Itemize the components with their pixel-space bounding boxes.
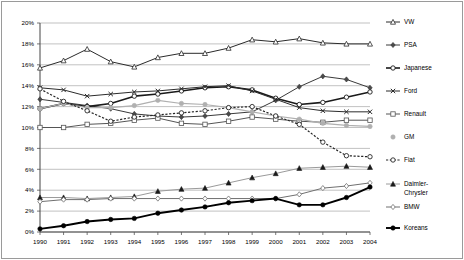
marker-square-open xyxy=(61,125,65,129)
legend-label: Koreans xyxy=(404,224,428,231)
marker-diamond-filled xyxy=(391,42,395,47)
marker-triangle-open xyxy=(85,47,90,52)
marker-circle-open xyxy=(132,115,136,119)
legend-item-ford[interactable]: Ford xyxy=(386,87,418,94)
legend-item-daimler-chrysler[interactable]: Daimler-Chrysler xyxy=(386,180,429,197)
x-axis-tick-label: 2000 xyxy=(269,238,283,245)
legend-label: VW xyxy=(404,18,415,25)
marker-circle-open xyxy=(297,122,301,126)
y-axis-tick-label: 16% xyxy=(22,61,35,68)
marker-circle-filled xyxy=(226,201,230,205)
marker-circle-open xyxy=(109,101,113,105)
x-axis-tick-label: 1998 xyxy=(222,238,236,245)
chart-container: 0%2%4%6%8%10%12%14%16%18%20%199019911992… xyxy=(0,0,464,260)
x-axis-tick-label: 1991 xyxy=(57,238,71,245)
marker-circle-filled xyxy=(179,208,183,212)
marker-diamond-filled xyxy=(203,113,207,118)
x-axis-tick-label: 2002 xyxy=(316,238,330,245)
marker-circle-filled xyxy=(203,205,207,209)
marker-circle-open xyxy=(38,87,42,91)
marker-square-open xyxy=(38,125,42,129)
marker-diamond-filled xyxy=(226,111,230,116)
marker-square-open xyxy=(85,122,89,126)
legend-label: Ford xyxy=(404,87,418,94)
marker-circle-open xyxy=(156,113,160,117)
line-chart: 0%2%4%6%8%10%12%14%16%18%20%199019911992… xyxy=(0,0,464,260)
y-axis-tick-label: 4% xyxy=(25,186,34,193)
marker-triangle-open xyxy=(108,59,113,64)
marker-circle-open xyxy=(391,158,395,162)
y-axis-tick-label: 6% xyxy=(25,166,34,173)
marker-diamond-filled xyxy=(344,77,348,82)
x-axis-tick-label: 1992 xyxy=(80,238,94,245)
marker-diamond-filled xyxy=(38,97,42,102)
marker-diamond-open xyxy=(109,196,113,201)
marker-circle-filled xyxy=(156,98,160,102)
legend-item-renault[interactable]: Renault xyxy=(386,110,426,117)
marker-square-open xyxy=(391,112,395,116)
marker-circle-open xyxy=(109,119,113,123)
marker-square-open xyxy=(179,121,183,125)
marker-circle-filled xyxy=(132,216,136,220)
legend-label: PSA xyxy=(404,41,418,48)
marker-square-open xyxy=(368,118,372,122)
marker-diamond-filled xyxy=(297,84,301,89)
legend-label: Renault xyxy=(404,110,426,117)
x-axis-tick-label: 1997 xyxy=(198,238,212,245)
marker-square-open xyxy=(250,115,254,119)
marker-circle-filled xyxy=(391,135,395,139)
x-axis-tick-label: 1995 xyxy=(151,238,165,245)
marker-circle-open xyxy=(132,94,136,98)
x-axis-tick-label: 2003 xyxy=(340,238,354,245)
marker-circle-filled xyxy=(368,124,372,128)
marker-square-open xyxy=(226,119,230,123)
marker-circle-filled xyxy=(132,103,136,107)
legend-label: Fiat xyxy=(404,156,415,163)
marker-square-open xyxy=(203,122,207,126)
marker-circle-open xyxy=(368,155,372,159)
marker-circle-filled xyxy=(344,195,348,199)
y-axis-tick-label: 8% xyxy=(25,145,34,152)
legend-label-2: Chrysler xyxy=(404,189,429,197)
legend-label: GM xyxy=(404,133,414,140)
marker-circle-filled xyxy=(250,110,254,114)
marker-circle-filled xyxy=(203,102,207,106)
marker-circle-open xyxy=(321,140,325,144)
marker-circle-filled xyxy=(109,217,113,221)
marker-circle-open xyxy=(391,66,395,70)
legend-item-fiat[interactable]: Fiat xyxy=(386,156,415,163)
marker-circle-open xyxy=(250,104,254,108)
marker-circle-open xyxy=(368,90,372,94)
y-axis-tick-label: 10% xyxy=(22,124,35,131)
legend-item-japanese[interactable]: Japanese xyxy=(386,64,432,72)
marker-circle-filled xyxy=(321,203,325,207)
legend-label: Japanese xyxy=(404,64,432,72)
marker-circle-filled xyxy=(344,123,348,127)
series-bmw xyxy=(38,180,372,204)
x-axis-tick-label: 1999 xyxy=(245,238,259,245)
marker-circle-filled xyxy=(85,219,89,223)
marker-diamond-open xyxy=(85,197,89,202)
chart-frame xyxy=(2,2,463,259)
x-axis-tick-label: 1993 xyxy=(104,238,118,245)
legend-item-koreans[interactable]: Koreans xyxy=(386,224,428,231)
y-axis-tick-label: 0% xyxy=(25,228,34,235)
x-axis-tick-label: 2001 xyxy=(292,238,306,245)
marker-circle-open xyxy=(203,109,207,113)
marker-circle-filled xyxy=(38,227,42,231)
marker-circle-filled xyxy=(61,224,65,228)
legend-item-psa[interactable]: PSA xyxy=(386,41,418,48)
marker-square-open xyxy=(344,118,348,122)
legend-item-vw[interactable]: VW xyxy=(386,18,415,25)
marker-diamond-filled xyxy=(321,74,325,79)
legend-item-gm[interactable]: GM xyxy=(391,133,414,140)
x-axis-tick-label: 1994 xyxy=(127,238,141,245)
x-axis-tick-label: 1990 xyxy=(33,238,47,245)
marker-diamond-open xyxy=(344,183,348,188)
y-axis-tick-label: 20% xyxy=(22,19,35,26)
marker-diamond-open xyxy=(179,196,183,201)
y-axis-tick-label: 18% xyxy=(22,40,35,47)
legend-item-bmw[interactable]: BMW xyxy=(386,203,421,210)
y-axis-tick-label: 2% xyxy=(25,207,34,214)
marker-circle-open xyxy=(344,154,348,158)
